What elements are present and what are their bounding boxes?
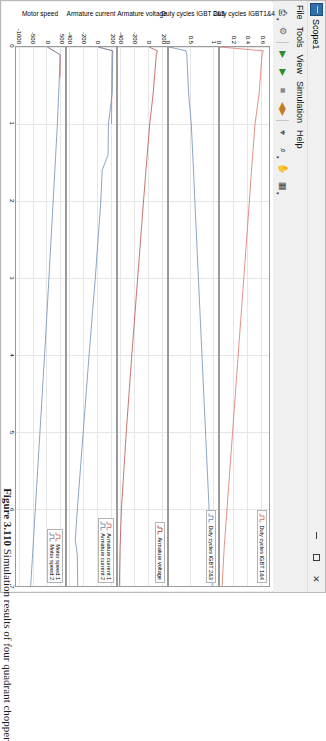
run-button[interactable]: ▶ [275,46,292,63]
subplot-3-axes[interactable]: Armature voltage [117,46,168,587]
legend-label: Duty cycles IGBT 1&4 [259,525,265,580]
subplot-3: Armature voltage2000-200-400Armature vol… [117,6,168,587]
x-tick-label: 4 [9,353,15,356]
chevron-down-icon: ▾ [276,18,281,21]
y-tick-label: 0.2 [231,36,237,44]
cursor-measurements-button[interactable]: ⌖ [275,124,292,141]
figure-caption: Figure 3.110 Simulation results of four … [0,596,326,633]
step-forward-button[interactable]: ▶ [275,64,292,81]
configuration-properties-button[interactable]: ⚙ [275,22,292,39]
scope-icon [310,3,323,16]
legend-entry[interactable]: Duty cycles IGBT 2&3 [208,513,214,580]
legend-swatch-icon [106,521,112,531]
x-tick-label: 5 [9,431,15,434]
y-tick-label: 200 [110,34,116,44]
y-axis-title-text: Duty cycles IGBT 2&3 [162,9,225,16]
menu-tools[interactable]: Tools [295,27,305,48]
print-icon: ⎙ [279,9,288,16]
y-axis-title-text: Motor speed [22,9,58,16]
stop-button[interactable]: ■ [275,82,292,99]
legend-swatch-icon [49,532,55,542]
subplot-1-legend[interactable]: Duty cycles IGBT 1&4 [257,510,267,583]
stop-icon: ■ [279,88,288,93]
subplot-1-axes[interactable]: Duty cycles IGBT 1&4 [219,46,270,587]
legend-entry[interactable]: Armature current:2 [100,521,106,580]
configuration-properties-icon: ⚙ [279,27,288,35]
y-tick-label: -400 [118,32,124,44]
subplot-3-y-title: Armature voltage [117,6,168,19]
subplot-4-y-title: Armature current [66,6,117,19]
y-tick-label: 0 [45,41,51,44]
y-axis-title-text: Armature voltage [118,9,168,16]
figure-caption-text: Simulation results of four quadrant chop… [2,549,14,741]
subplot-4-y-ticks: 2000-200-400 [66,19,117,46]
plot-area: Duty cycles IGBT1&40.60.40.20Duty cycles… [2,2,273,591]
legend-swatch-icon [55,532,61,542]
legend-entry[interactable]: Armature current:1 [106,521,112,580]
menu-simulation[interactable]: Simulation [295,81,305,123]
figure-number: Figure 3.110 [2,488,14,546]
maximize-icon[interactable] [309,546,324,568]
legend-label: Motor speed:2 [49,544,55,580]
subplot-1: Duty cycles IGBT1&40.60.40.20Duty cycles… [219,6,270,587]
y-tick-label: -1000 [16,29,22,44]
step-forward-icon: ▶ [279,69,288,76]
subplot-5-axes[interactable]: Motor speed:1Motor speed:2 [15,46,66,587]
minimize-icon[interactable] [309,524,324,546]
window-title: Scope1 [312,19,322,50]
subplot-5-legend[interactable]: Motor speed:1Motor speed:2 [47,529,63,583]
subplot-2-y-ticks: 10.50 [168,19,219,46]
chevron-down-icon: ▾ [276,192,281,195]
subplot-4-legend[interactable]: Armature current:1Armature current:2 [98,518,114,583]
legend-label: Duty cycles IGBT 2&3 [208,525,214,580]
series-canvas [16,47,65,586]
series-line [220,47,263,586]
window-titlebar: Scope1 ✕ [307,1,325,592]
series-line [47,47,60,78]
legend-entry[interactable]: Motor speed:2 [49,532,55,580]
legend-entry[interactable]: Armature voltage [157,525,163,580]
print-button[interactable]: ⎙▾ [275,4,292,21]
menu-file[interactable]: File [295,5,305,20]
grid-line-vertical [220,586,269,587]
legend-entry[interactable]: Duty cycles IGBT 1&4 [259,513,265,580]
y-tick-label: 0.4 [245,36,251,44]
legend-toggle-button[interactable]: ▦▾ [275,178,292,195]
simulation-stepping-button[interactable]: ◀▶ [275,100,292,117]
legend-swatch-icon [259,513,265,523]
subplot-2-legend[interactable]: Duty cycles IGBT 2&3 [206,510,216,583]
menu-help[interactable]: Help [295,130,305,149]
x-tick-label: 3 [9,276,15,279]
series-line [119,47,157,586]
close-icon[interactable]: ✕ [309,568,324,590]
series-canvas [67,47,116,586]
chevron-down-icon: ▾ [276,156,281,159]
subplot-4: Armature current2000-200-400Armature cur… [66,6,117,587]
zoom-in-icon: ⌕ [279,148,288,153]
series-line [75,47,113,586]
menu-view[interactable]: View [295,55,305,74]
pan-button[interactable]: ✋ [275,160,292,177]
x-tick-label: 2 [9,199,15,202]
y-tick-label: 500 [59,34,65,44]
series-canvas [169,47,218,586]
y-tick-label: 0 [146,41,152,44]
y-tick-label: 0 [95,41,101,44]
series-line [169,47,212,586]
simulation-stepping-icon: ◀▶ [279,102,288,116]
zoom-in-button[interactable]: ⌕▾ [275,142,292,159]
subplot-1-y-ticks: 0.60.40.20 [219,19,270,46]
subplot-4-axes[interactable]: Armature current:1Armature current:2 [66,46,117,587]
y-tick-label: 0.5 [188,36,194,44]
y-tick-label: -200 [132,32,138,44]
legend-label: Motor speed:1 [55,544,61,580]
series-line [98,47,112,124]
cursor-measurements-icon: ⌖ [279,130,288,135]
series-canvas [220,47,269,586]
subplot-stack: Duty cycles IGBT1&40.60.40.20Duty cycles… [15,6,270,587]
subplot-2-axes[interactable]: Duty cycles IGBT 2&3 [168,46,219,587]
subplot-3-legend[interactable]: Armature voltage [155,522,165,583]
legend-entry[interactable]: Motor speed:1 [55,532,61,580]
y-tick-label: 200 [161,34,167,44]
menubar: File Tools View Simulation Help [293,1,307,592]
